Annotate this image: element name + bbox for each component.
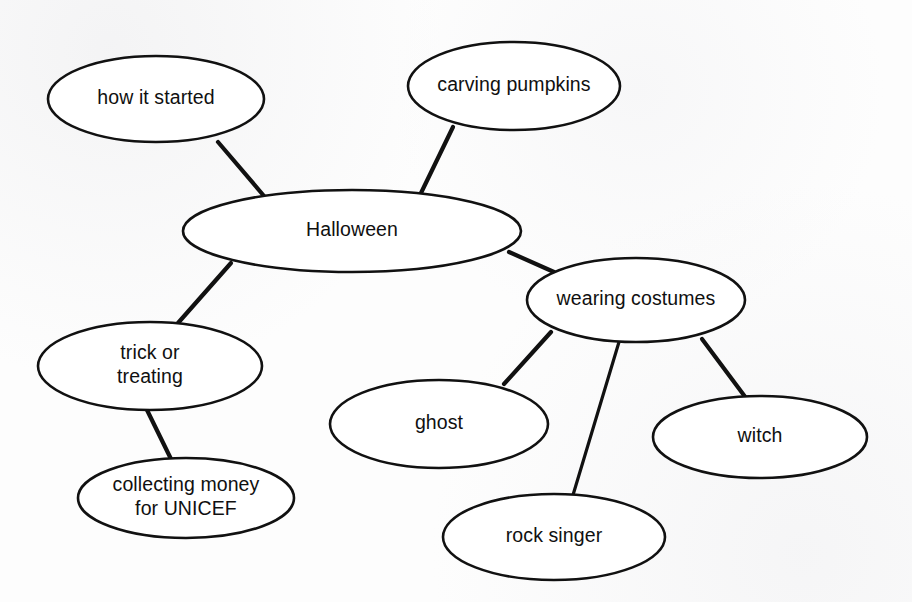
node-how-it-started[interactable]: how it started	[48, 56, 264, 142]
nodes-layer: Halloweenhow it startedcarving pumpkinst…	[38, 42, 867, 580]
node-halloween[interactable]: Halloween	[183, 190, 521, 272]
node-label-line: witch	[737, 424, 783, 446]
node-label-witch: witch	[737, 424, 783, 446]
node-label-wearing-costumes: wearing costumes	[556, 287, 716, 309]
node-witch[interactable]: witch	[653, 396, 867, 478]
node-ghost[interactable]: ghost	[330, 380, 548, 468]
node-label-line: wearing costumes	[556, 287, 716, 309]
connector-wearing-costumes-to-rock-singer	[573, 342, 619, 495]
connector-carving-pumpkins-to-halloween	[421, 127, 453, 193]
node-label-ghost: ghost	[415, 411, 464, 433]
connector-wearing-costumes-to-witch	[702, 339, 746, 398]
node-label-line: collecting money	[113, 473, 260, 495]
node-label-line: ghost	[415, 411, 464, 433]
node-label-how-it-started: how it started	[97, 86, 214, 108]
connector-wearing-costumes-to-ghost	[504, 332, 551, 384]
node-label-line: trick or	[120, 341, 180, 363]
node-label-carving-pumpkins: carving pumpkins	[437, 73, 590, 95]
mind-map-canvas: Halloweenhow it startedcarving pumpkinst…	[0, 0, 912, 602]
connector-halloween-to-wearing-costumes	[509, 252, 554, 272]
node-label-line: carving pumpkins	[437, 73, 590, 95]
node-trick-or-treating[interactable]: trick ortreating	[38, 322, 262, 410]
node-label-line: how it started	[97, 86, 214, 108]
connector-trick-or-treating-to-collecting-money-for-unicef	[147, 410, 171, 459]
connector-how-it-started-to-halloween	[218, 142, 264, 196]
node-label-line: rock singer	[506, 524, 603, 546]
node-label-rock-singer: rock singer	[506, 524, 603, 546]
node-carving-pumpkins[interactable]: carving pumpkins	[408, 42, 620, 130]
node-collecting-money-for-unicef[interactable]: collecting moneyfor UNICEF	[78, 458, 294, 538]
mind-map-svg: Halloweenhow it startedcarving pumpkinst…	[0, 0, 912, 602]
node-label-line: for UNICEF	[135, 497, 237, 519]
node-wearing-costumes[interactable]: wearing costumes	[527, 258, 745, 342]
node-label-halloween: Halloween	[306, 218, 398, 240]
node-label-line: treating	[117, 365, 183, 387]
connector-halloween-to-trick-or-treating	[178, 263, 231, 323]
node-rock-singer[interactable]: rock singer	[443, 494, 665, 580]
node-label-line: Halloween	[306, 218, 398, 240]
